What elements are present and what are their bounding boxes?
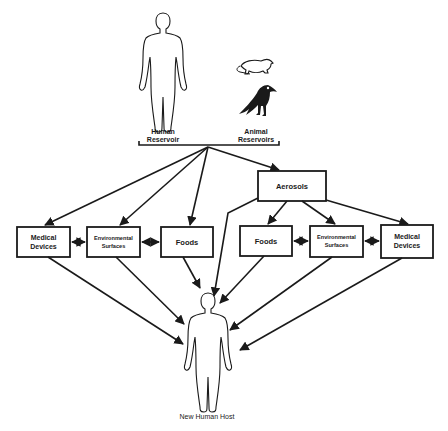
animal-reservoir-label-2: Reservoirs <box>238 136 274 143</box>
svg-text:Devices: Devices <box>30 243 57 250</box>
svg-text:Environmental: Environmental <box>94 235 133 241</box>
svg-text:Surfaces: Surfaces <box>325 242 349 248</box>
right-foods-box: Foods <box>240 226 292 256</box>
svg-text:Medical: Medical <box>31 234 57 241</box>
rodent-icon <box>237 60 273 75</box>
animal-reservoir-label-1: Animal <box>244 128 267 135</box>
reservoir-arrows <box>45 147 279 225</box>
svg-text:Environmental: Environmental <box>317 234 356 240</box>
right-environmental-surfaces-box: Environmental Surfaces <box>310 226 363 257</box>
human-reservoir-figure-icon <box>139 13 186 132</box>
aerosols-box: Aerosols <box>258 171 326 201</box>
human-reservoir-label-1: Human <box>151 128 175 135</box>
right-medical-devices-box: Medical Devices <box>381 225 433 258</box>
svg-text:Foods: Foods <box>176 238 199 247</box>
left-environmental-surfaces-box: Environmental Surfaces <box>87 227 140 257</box>
left-medical-devices-box: Medical Devices <box>17 227 70 257</box>
left-foods-box: Foods <box>161 227 213 257</box>
transmission-diagram: Human Reservoir Animal Reservoirs Aeroso… <box>0 0 448 431</box>
new-human-host-label: New Human Host <box>180 413 235 420</box>
svg-text:Foods: Foods <box>255 237 278 246</box>
svg-text:Devices: Devices <box>394 242 421 249</box>
new-human-host-figure-icon <box>184 293 231 412</box>
svg-text:Medical: Medical <box>394 233 420 240</box>
svg-text:Surfaces: Surfaces <box>102 243 126 249</box>
bird-icon <box>239 85 277 116</box>
aerosols-label: Aerosols <box>276 182 308 191</box>
human-reservoir-label-2: Reservoir <box>147 136 180 143</box>
